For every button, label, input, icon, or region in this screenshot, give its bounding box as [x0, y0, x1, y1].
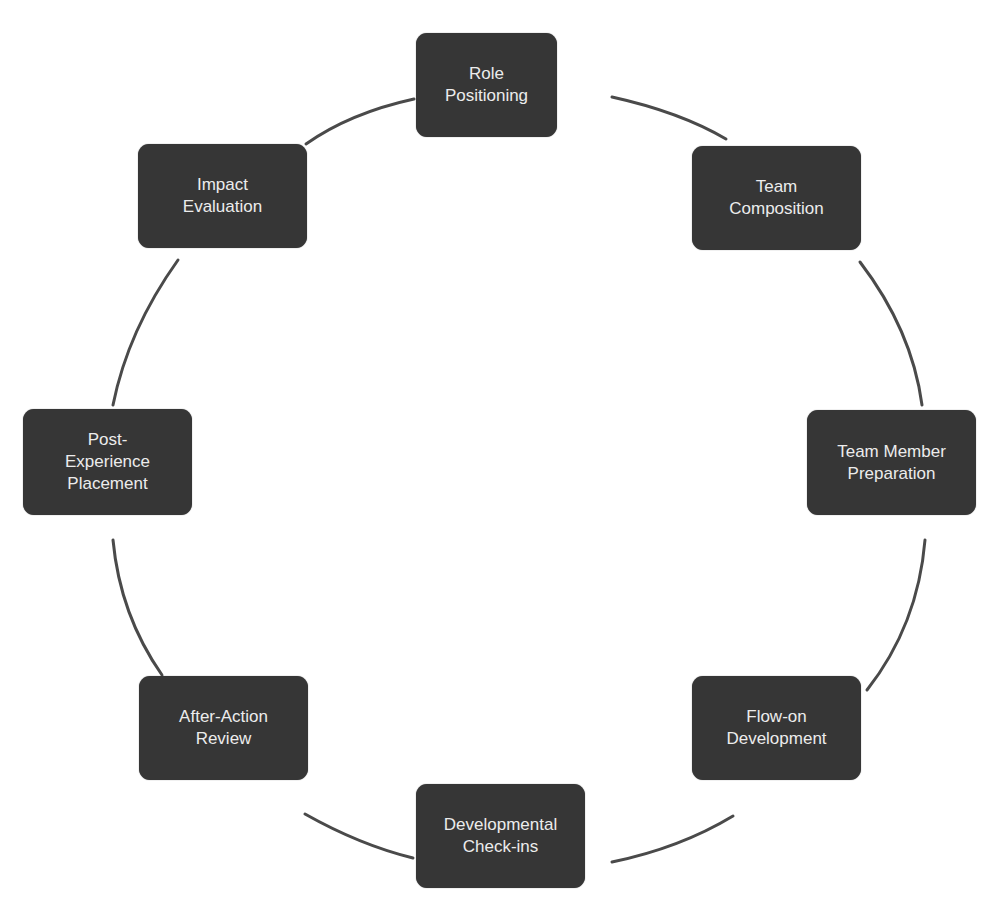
- node-after-action-review: After-Action Review: [139, 676, 308, 780]
- connector-flow-on-to-check-ins: [612, 816, 733, 862]
- node-label: Team Composition: [729, 176, 824, 220]
- node-label: Impact Evaluation: [183, 174, 262, 218]
- connector-after-action-to-placement: [113, 540, 162, 675]
- node-label: Developmental Check-ins: [444, 814, 557, 858]
- connector-check-ins-to-after-action: [305, 814, 413, 858]
- node-team-member-preparation: Team Member Preparation: [807, 410, 976, 515]
- connector-placement-to-impact: [113, 260, 178, 405]
- connector-role-to-team-composition: [612, 97, 726, 139]
- connector-preparation-to-flow-on: [867, 540, 925, 690]
- connector-impact-to-role: [306, 99, 414, 144]
- node-label: Team Member Preparation: [837, 441, 946, 485]
- node-role-positioning: Role Positioning: [416, 33, 557, 137]
- connector-team-composition-to-preparation: [860, 262, 922, 405]
- node-label: Role Positioning: [445, 63, 528, 107]
- node-label: After-Action Review: [179, 706, 268, 750]
- node-team-composition: Team Composition: [692, 146, 861, 250]
- node-flow-on-development: Flow-on Development: [692, 676, 861, 780]
- node-developmental-check-ins: Developmental Check-ins: [416, 784, 585, 888]
- node-post-experience-placement: Post- Experience Placement: [23, 409, 192, 515]
- node-impact-evaluation: Impact Evaluation: [138, 144, 307, 248]
- node-label: Post- Experience Placement: [65, 429, 150, 495]
- node-label: Flow-on Development: [726, 706, 826, 750]
